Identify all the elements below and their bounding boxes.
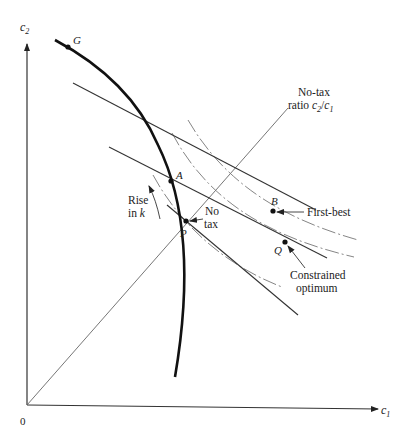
tax-diagram: G A P B Q c2 c1 0 No-tax ratio c2/c1 Ris… bbox=[0, 0, 409, 442]
rise-label-line1: Rise bbox=[128, 194, 148, 206]
point-G bbox=[65, 44, 70, 49]
x-axis-label: c1 bbox=[381, 403, 390, 419]
notax-label-line1: No bbox=[205, 205, 219, 217]
indifference-curve-middle bbox=[172, 133, 354, 257]
point-P bbox=[183, 218, 188, 223]
notax-arrow bbox=[190, 219, 203, 221]
point-A bbox=[168, 178, 173, 183]
origin-label: 0 bbox=[20, 415, 26, 427]
point-Q bbox=[282, 239, 287, 244]
rise-label-line2: in k bbox=[128, 207, 146, 219]
y-axis-label: c2 bbox=[20, 20, 29, 36]
constrained-label-line2: optimum bbox=[296, 282, 338, 295]
ray-label-line1: No-tax bbox=[298, 86, 330, 98]
label-A: A bbox=[175, 169, 183, 181]
label-B: B bbox=[271, 195, 278, 207]
first-best-label: First-best bbox=[307, 206, 351, 218]
budget-lines bbox=[73, 83, 327, 315]
x-axis bbox=[27, 405, 378, 409]
label-P: P bbox=[179, 227, 187, 239]
no-tax-ratio-ray bbox=[27, 108, 288, 405]
label-Q: Q bbox=[274, 244, 282, 256]
points bbox=[65, 44, 287, 244]
label-G: G bbox=[73, 34, 81, 46]
ray-label-line2: ratio c2/c1 bbox=[288, 99, 333, 114]
frontier-curve bbox=[55, 40, 184, 377]
notax-label-line2: tax bbox=[204, 218, 218, 230]
rise-in-k-arrow bbox=[149, 186, 160, 219]
constrained-label-line1: Constrained bbox=[290, 269, 346, 281]
point-B bbox=[270, 208, 275, 213]
constrained-arrow bbox=[288, 246, 305, 268]
